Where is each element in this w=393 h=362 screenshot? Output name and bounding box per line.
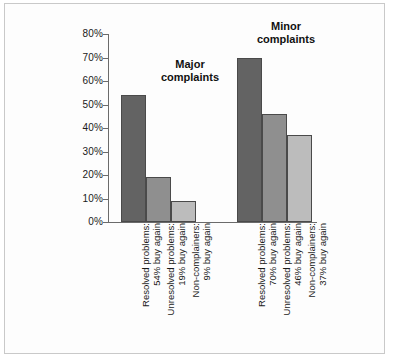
y-tick-label-50pct: 50% <box>65 100 103 110</box>
x-label-4: Unresolved problems:46% buy again <box>281 223 303 315</box>
bar-1 <box>146 177 171 222</box>
y-tick-label-60pct: 60% <box>65 76 103 86</box>
y-tick-mark <box>103 58 108 59</box>
x-label-line2: 37% buy again <box>317 223 328 297</box>
y-tick-mark <box>103 81 108 82</box>
group-title-minor-complaints: Minorcomplaints <box>226 20 346 46</box>
bar-2 <box>171 201 196 222</box>
x-label-1: Unresolved problems:19% buy again <box>165 223 187 315</box>
group-title-line2: complaints <box>130 71 250 84</box>
y-tick-label-30pct: 30% <box>65 147 103 157</box>
y-tick-label-40pct: 40% <box>65 123 103 133</box>
bar-4 <box>262 114 287 222</box>
y-tick-label-10pct: 10% <box>65 194 103 204</box>
y-tick-label-70pct: 70% <box>65 53 103 63</box>
x-label-2: Non-complainers:9% buy again <box>190 223 212 297</box>
x-label-3: Resolved problems:70% buy again <box>256 223 278 307</box>
x-label-line1: Unresolved problems: <box>281 223 292 315</box>
x-label-line1: Unresolved problems: <box>165 223 176 315</box>
x-label-line2: 9% buy again <box>201 223 212 297</box>
x-label-line2: 70% buy again <box>267 223 278 307</box>
figure-frame: 0%10%20%30%40%50%60%70%80% Majorcomplain… <box>4 3 385 354</box>
x-label-line2: 19% buy again <box>176 223 187 315</box>
y-tick-mark <box>103 34 108 35</box>
x-axis-category-labels: Resolved problems:54% buy againUnresolve… <box>108 223 317 355</box>
y-tick-mark <box>103 105 108 106</box>
x-label-line1: Non-complainers: <box>306 223 317 297</box>
group-title-line2: complaints <box>226 33 346 46</box>
y-axis-line <box>108 34 109 222</box>
x-label-5: Non-complainers:37% buy again <box>306 223 328 297</box>
x-label-line2: 46% buy again <box>292 223 303 315</box>
bar-0 <box>121 95 146 222</box>
y-axis-tick-labels: 0%10%20%30%40%50%60%70%80% <box>63 34 103 222</box>
y-tick-label-80pct: 80% <box>65 29 103 39</box>
y-tick-mark <box>103 128 108 129</box>
x-label-line2: 54% buy again <box>151 223 162 307</box>
y-tick-label-20pct: 20% <box>65 170 103 180</box>
x-label-0: Resolved problems:54% buy again <box>140 223 162 307</box>
bar-5 <box>287 135 312 222</box>
group-title-line1: Major <box>130 58 250 71</box>
plot-area: MajorcomplaintsMinorcomplaints <box>108 34 317 222</box>
group-title-line1: Minor <box>226 20 346 33</box>
group-title-major-complaints: Majorcomplaints <box>130 58 250 84</box>
y-tick-mark <box>103 175 108 176</box>
chart-figure: 0%10%20%30%40%50%60%70%80% Majorcomplain… <box>0 0 393 362</box>
y-tick-mark <box>103 199 108 200</box>
y-tick-mark <box>103 152 108 153</box>
x-label-line1: Resolved problems: <box>256 223 267 307</box>
y-tick-label-0pct: 0% <box>65 217 103 227</box>
x-label-line1: Resolved problems: <box>140 223 151 307</box>
x-label-line1: Non-complainers: <box>190 223 201 297</box>
